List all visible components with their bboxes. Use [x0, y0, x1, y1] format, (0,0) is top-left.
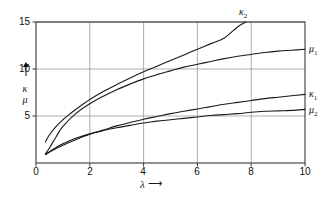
x-axis-arrow-icon: ⟶	[148, 179, 162, 189]
y-tick-15: 15	[8, 16, 30, 27]
plot-frame	[33, 22, 306, 167]
y-axis-title-mu: μ	[18, 94, 32, 105]
x-axis-title: λ ⟶	[140, 178, 162, 190]
x-tick-6: 6	[187, 166, 207, 177]
chart-plot-area	[0, 0, 336, 198]
x-tick-0: 0	[26, 166, 46, 177]
x-axis-title-lambda: λ	[140, 178, 145, 190]
curve-label-kappa2: κ2	[239, 6, 247, 20]
x-tick-4: 4	[133, 166, 153, 177]
chart-figure: κ μ 15 10 5 0 2 4 6 8 10 λ ⟶ κ2 μ1 κ1 μ2	[0, 0, 336, 198]
curve-label-mu1: μ1	[309, 43, 318, 57]
curve-label-kappa1: κ1	[309, 88, 317, 102]
y-tick-5: 5	[8, 110, 30, 121]
curve-label-mu2: μ2	[309, 104, 318, 118]
curve-label-kappa1-sub: 1	[314, 94, 318, 102]
gridlines	[36, 22, 305, 163]
y-axis-title: κ μ	[18, 83, 32, 105]
curve-κ₂	[45, 22, 245, 142]
y-axis-title-kappa: κ	[18, 83, 32, 94]
curve-μ₁	[45, 49, 305, 154]
x-tick-10: 10	[295, 166, 315, 177]
curve-label-mu2-sub: 2	[314, 110, 318, 118]
x-tick-2: 2	[80, 166, 100, 177]
y-tick-10: 10	[8, 63, 30, 74]
curve-label-mu1-sub: 1	[314, 49, 318, 57]
data-curves	[45, 22, 305, 155]
curve-label-kappa2-sub: 2	[244, 12, 248, 20]
x-tick-8: 8	[241, 166, 261, 177]
